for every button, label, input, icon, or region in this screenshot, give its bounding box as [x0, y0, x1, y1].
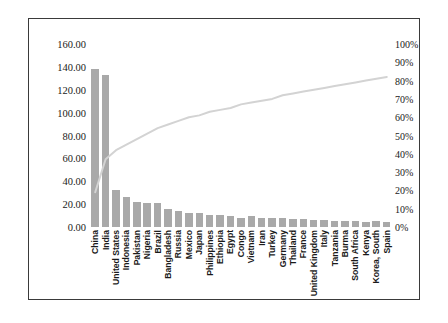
cumulative-line-series: [90, 44, 392, 227]
x-axis-tick-label: Spain: [382, 230, 392, 253]
x-axis-tick-label: Tanzania: [330, 230, 340, 266]
x-axis-tick-label: Bangladesh: [163, 230, 173, 279]
x-label-slot: Kenya: [361, 229, 371, 317]
y-right-tick-label: 50%: [395, 130, 413, 141]
x-axis-tick-label: France: [298, 230, 308, 258]
x-label-slot: Turkey: [267, 229, 277, 317]
y-right-tick-label: 10%: [395, 203, 413, 214]
x-axis-tick-label: Russia: [173, 230, 183, 258]
y-right-tick-label: 80%: [395, 75, 413, 86]
y-right-tick-label: 70%: [395, 93, 413, 104]
x-label-slot: Burma: [340, 229, 350, 317]
x-axis-tick-label: United States: [111, 230, 121, 285]
y-right-tick-label: 20%: [395, 185, 413, 196]
x-axis-tick-label: Turkey: [267, 230, 277, 258]
y-left-tick-label: 60.00: [62, 153, 86, 164]
x-axis-tick-label: Germany: [278, 230, 288, 267]
x-label-slot: Thailand: [288, 229, 298, 317]
x-axis-tick-label: Japan: [194, 230, 204, 255]
x-label-slot: Iran: [257, 229, 267, 317]
x-axis-tick-label: Kenya: [361, 230, 371, 256]
x-label-slot: Indonesia: [121, 229, 131, 317]
x-label-slot: Vietnam: [246, 229, 256, 317]
y-axis-right: 100%90%80%70%60%50%40%30%20%10%0%: [395, 44, 435, 227]
x-label-slot: Germany: [277, 229, 287, 317]
y-left-tick-label: 0.00: [68, 222, 86, 233]
y-right-tick-label: 0%: [395, 222, 408, 233]
x-label-slot: Brazil: [152, 229, 162, 317]
cumulative-line-path: [95, 77, 387, 192]
plot-area: [90, 44, 392, 227]
x-axis-tick-label: Iran: [257, 230, 267, 246]
y-left-tick-label: 20.00: [62, 199, 86, 210]
x-label-slot: Japan: [194, 229, 204, 317]
x-axis-tick-label: Italy: [319, 230, 329, 247]
y-left-tick-label: 160.00: [57, 39, 86, 50]
x-axis-tick-label: South Africa: [350, 230, 360, 281]
y-right-tick-label: 90%: [395, 57, 413, 68]
x-axis-tick-label: India: [101, 230, 111, 250]
x-axis-tick-label: China: [90, 230, 100, 254]
y-right-tick-label: 40%: [395, 148, 413, 159]
x-axis-tick-label: Congo: [236, 230, 246, 257]
x-axis-tick-label: Indonesia: [121, 230, 131, 270]
x-axis-tick-label: Nigeria: [142, 230, 152, 259]
y-right-tick-label: 60%: [395, 112, 413, 123]
x-label-slot: United Kingdom: [309, 229, 319, 317]
x-label-slot: Russia: [173, 229, 183, 317]
x-label-slot: Pakistan: [132, 229, 142, 317]
y-right-tick-label: 100%: [395, 39, 418, 50]
x-label-slot: Spain: [381, 229, 391, 317]
x-axis-tick-label: Vietnam: [246, 230, 256, 263]
y-left-tick-label: 120.00: [57, 84, 86, 95]
x-label-slot: France: [298, 229, 308, 317]
x-label-slot: Congo: [236, 229, 246, 317]
x-label-slot: United States: [111, 229, 121, 317]
x-axis-tick-label: Mexico: [184, 230, 194, 259]
x-label-slot: Korea, South: [371, 229, 381, 317]
x-label-slot: South Africa: [350, 229, 360, 317]
x-label-slot: India: [100, 229, 110, 317]
x-axis-tick-label: Egypt: [225, 230, 235, 254]
y-right-tick-label: 30%: [395, 167, 413, 178]
y-left-tick-label: 100.00: [57, 107, 86, 118]
x-label-slot: Philippines: [204, 229, 214, 317]
x-label-slot: Italy: [319, 229, 329, 317]
x-axis-tick-label: Pakistan: [132, 230, 142, 265]
x-label-slot: Tanzania: [329, 229, 339, 317]
x-label-slot: Egypt: [225, 229, 235, 317]
x-axis-tick-label: Brazil: [153, 230, 163, 253]
x-label-slot: Mexico: [184, 229, 194, 317]
x-label-slot: Bangladesh: [163, 229, 173, 317]
x-axis-tick-label: Korea, South: [371, 230, 381, 283]
x-axis-tick-label: Burma: [340, 230, 350, 257]
y-axis-left: 160.00140.00120.00100.0080.0060.0040.002…: [29, 44, 86, 227]
x-label-slot: China: [90, 229, 100, 317]
y-left-tick-label: 140.00: [57, 61, 86, 72]
x-label-slot: Ethiopia: [215, 229, 225, 317]
x-axis-tick-label: Thailand: [288, 230, 298, 265]
x-axis-tick-label: Philippines: [205, 230, 215, 276]
chart-frame: 160.00140.00120.00100.0080.0060.0040.002…: [28, 18, 420, 300]
x-axis-tick-label: Ethiopia: [215, 230, 225, 264]
y-left-tick-label: 40.00: [62, 176, 86, 187]
x-axis-tick-label: United Kingdom: [309, 230, 319, 296]
x-axis-labels: ChinaIndiaUnited StatesIndonesiaPakistan…: [90, 229, 392, 317]
y-left-tick-label: 80.00: [62, 130, 86, 141]
x-label-slot: Nigeria: [142, 229, 152, 317]
